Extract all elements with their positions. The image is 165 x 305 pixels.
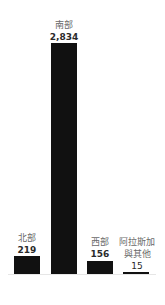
bar-chart: 北部 219 南部 2,834 西部 156 阿拉斯加 與其他 15 [0, 0, 165, 305]
label-south: 南部 2,834 [42, 19, 86, 43]
bar-alaska-and-other [123, 272, 149, 274]
value-label: 2,834 [42, 31, 86, 43]
category-label-line1: 阿拉斯加 [114, 236, 160, 248]
category-label-line2: 與其他 [114, 248, 160, 260]
category-label: 北部 [5, 232, 49, 244]
label-north: 北部 219 [5, 232, 49, 256]
bar-south [51, 43, 77, 274]
bar-north [14, 256, 40, 274]
value-label: 219 [5, 244, 49, 256]
x-axis-baseline [8, 274, 156, 275]
label-alaska-and-other: 阿拉斯加 與其他 15 [114, 236, 160, 272]
category-label: 南部 [42, 19, 86, 31]
bar-west [87, 261, 113, 274]
value-label: 15 [114, 260, 160, 272]
